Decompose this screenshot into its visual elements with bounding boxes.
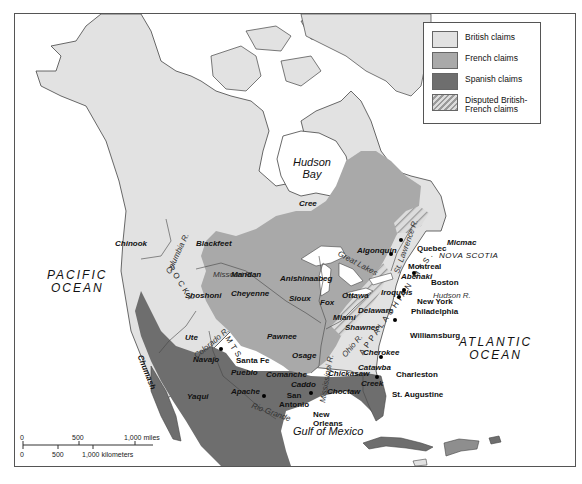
hudson-line1: Hudson — [293, 156, 331, 168]
tribe-abenaki: Abenaki — [401, 273, 432, 281]
city-dot-new-orleans — [309, 391, 313, 395]
tribe-micmac: Micmac — [447, 239, 476, 247]
city-dot-st-augustine — [375, 375, 379, 379]
tribe-yaqui: Yaqui — [187, 393, 208, 401]
tribe-chickasaw: Chickasaw — [328, 370, 369, 378]
hudson-bay-label: Hudson Bay — [293, 156, 331, 180]
greenland — [301, 14, 431, 96]
city-new-york: New York — [417, 298, 453, 306]
tribe-ute: Ute — [185, 334, 198, 342]
tribe-navajo: Navajo — [193, 356, 219, 364]
french-claims-swatch — [432, 52, 458, 69]
disputed-claims-swatch — [432, 94, 458, 111]
tribe-delaware: Delaware — [358, 307, 393, 315]
british-claims-swatch — [432, 31, 458, 48]
puerto-rico — [489, 436, 501, 444]
scale-km-1000: 1,000 kilometers — [82, 451, 133, 458]
city-philadelphia: Philadelphia — [411, 308, 458, 316]
tribe-fox: Fox — [320, 299, 334, 307]
tribe-ottawa: Ottawa — [342, 292, 369, 300]
hispaniola — [444, 439, 479, 456]
city-dot-boston — [412, 271, 416, 275]
jamaica — [413, 459, 427, 466]
tribe-choctaw: Choctaw — [327, 388, 360, 396]
pacific-ocean-label: PACIFIC OCEAN — [47, 269, 107, 294]
tribe-mandan: Mandan — [231, 271, 261, 279]
tribe-anishinaabeg: Anishinaabeg — [280, 275, 332, 283]
legend-item-disputed: Disputed British-French claims — [432, 94, 537, 115]
city-dot-williamsburg — [393, 318, 397, 322]
scale-km-0: 0 — [20, 451, 24, 458]
tribe-pawnee: Pawnee — [267, 333, 297, 341]
tribe-comanche: Comanche — [266, 371, 307, 379]
tribe-cheyenne: Cheyenne — [231, 290, 269, 298]
city-new-orleans: New Orleans — [313, 411, 343, 429]
tribe-caddo: Caddo — [291, 381, 316, 389]
city-dot-charleston — [379, 355, 383, 359]
tribe-pueblo: Pueblo — [231, 369, 258, 377]
legend-item-spanish: Spanish claims — [432, 73, 522, 90]
new-orleans-line2: Orleans — [313, 420, 343, 429]
city-montreal: Montreal — [408, 263, 441, 271]
city-dot-montreal — [389, 252, 393, 256]
city-williamsburg: Williamsburg — [410, 332, 460, 340]
cuba — [363, 437, 433, 451]
scale-bar: 0 500 1,000 miles 0 500 1,000 kilometers — [18, 432, 188, 460]
tribe-shoshoni: Shoshoni — [185, 292, 221, 300]
city-dot-new-york — [402, 288, 406, 292]
city-dot-quebec — [399, 238, 403, 242]
tribe-shawnee: Shawnee — [345, 324, 380, 332]
legend-label-french: French claims — [465, 52, 518, 63]
city-dot-san-antonio — [262, 394, 266, 398]
spanish-claims-swatch — [432, 73, 458, 90]
legend-item-british: British claims — [432, 31, 515, 48]
nova-scotia-label: NOVA SCOTIA — [439, 252, 498, 260]
city-santa-fe: Santa Fe — [236, 357, 269, 365]
tribe-creek: Creek — [361, 380, 383, 388]
atlantic-line2: OCEAN — [459, 349, 532, 362]
legend-label-british: British claims — [465, 31, 515, 42]
city-charleston: Charleston — [396, 371, 438, 379]
legend-item-french: French claims — [432, 52, 518, 69]
tribe-osage: Osage — [292, 352, 316, 360]
tribe-blackfeet: Blackfeet — [196, 240, 232, 248]
city-quebec: Quebec — [417, 245, 446, 253]
atlantic-line1: ATLANTIC — [459, 336, 532, 349]
scale-km-500: 500 — [52, 451, 64, 458]
san-antonio-line2: Antonio — [279, 401, 309, 410]
tribe-sioux: Sioux — [289, 295, 311, 303]
tribe-apache: Apache — [231, 388, 260, 396]
city-boston: Boston — [431, 279, 459, 287]
city-st-augustine: St. Augustine — [392, 391, 443, 399]
tribe-cree: Cree — [299, 200, 317, 208]
hudson-line2: Bay — [293, 168, 331, 180]
legend-label-disputed: Disputed British-French claims — [465, 94, 537, 115]
city-dot-philadelphia — [397, 295, 401, 299]
tribe-chinook: Chinook — [115, 240, 147, 248]
pacific-line1: PACIFIC — [47, 269, 107, 282]
city-dot-santa-fe — [219, 347, 223, 351]
atlantic-ocean-label: ATLANTIC OCEAN — [459, 336, 532, 361]
city-san-antonio: San Antonio — [279, 392, 309, 410]
pacific-line2: OCEAN — [47, 282, 107, 295]
tribe-miami: Miami — [333, 314, 356, 322]
legend-label-spanish: Spanish claims — [465, 73, 522, 84]
map-legend: British claims French claims Spanish cla… — [423, 22, 541, 124]
